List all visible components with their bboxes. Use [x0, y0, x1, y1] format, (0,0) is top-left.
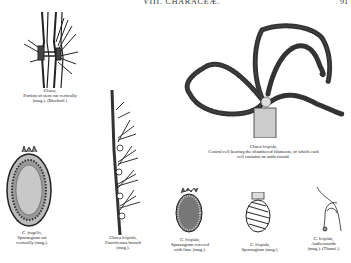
caption-fragilis-sporangium: C. fragilis, Sporangium cut vertically (…: [2, 230, 62, 246]
antherozoids-illustration: [315, 185, 345, 235]
sporangium-illustration: [242, 192, 272, 234]
running-title: VIII. CHARACEÆ.: [143, 0, 220, 6]
page-number: 91: [340, 0, 348, 6]
caption-central-cell: Chara hispida, Central cell bearing the …: [176, 144, 351, 160]
caption-fructiferous-branch: Chara hispida, Fructiferous branch (mag.…: [86, 235, 160, 251]
page-header: VIII. CHARACEÆ. 91: [0, 0, 351, 7]
caption-antherozoids: C. hispida, Antherozoids (mag.). (Thomé.…: [296, 236, 351, 252]
book-page: VIII. CHARACEÆ. 91 Chara, Portion of ste…: [0, 0, 351, 263]
fragilis-sporangium-illustration: [4, 144, 54, 230]
caption-sporangium: C. hispida, Sporangium (mag.).: [230, 242, 290, 252]
fructiferous-branch-illustration: [100, 90, 150, 235]
stem-section-illustration: [20, 12, 80, 88]
sporangium-lime-illustration: [174, 187, 204, 233]
chambered-filaments-illustration: [172, 14, 350, 138]
caption-stem-section: Chara, Portion of stem cut vertically (m…: [2, 88, 98, 104]
caption-sporangium-lime: C. hispida, Sporangium covered with lime…: [158, 237, 222, 253]
